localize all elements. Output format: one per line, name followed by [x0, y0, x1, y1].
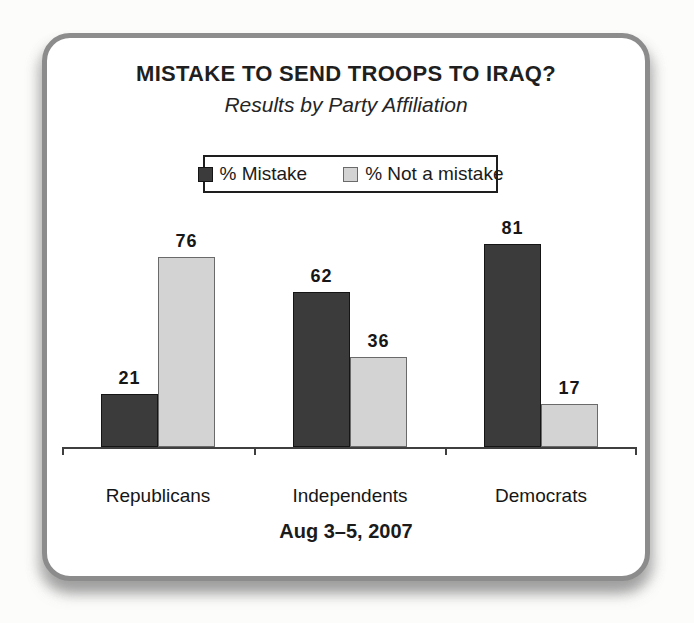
axis-tick — [445, 447, 447, 455]
axis-tick — [62, 447, 64, 455]
legend-label-not-a-mistake: % Not a mistake — [365, 163, 503, 185]
axis-tick — [635, 447, 637, 455]
category-label-independents: Independents — [254, 485, 446, 509]
bar-democrats-not-a-mistake — [541, 404, 598, 447]
bar-republicans-not-a-mistake — [158, 257, 215, 447]
bar-republicans-mistake — [101, 394, 158, 447]
chart-title: MISTAKE TO SEND TROOPS TO IRAQ? — [47, 61, 645, 87]
bar-chart-plot: 2176Republicans6236Independents8117Democ… — [62, 197, 637, 449]
value-label-democrats-not-a-mistake: 17 — [529, 378, 610, 399]
mistake-swatch-icon — [198, 167, 213, 182]
chart-subtitle: Results by Party Affiliation — [47, 93, 645, 117]
axis-tick — [254, 447, 256, 455]
legend: % Mistake % Not a mistake — [203, 155, 498, 193]
category-label-republicans: Republicans — [62, 485, 254, 509]
chart-card: MISTAKE TO SEND TROOPS TO IRAQ? Results … — [42, 33, 650, 581]
scanned-page: MISTAKE TO SEND TROOPS TO IRAQ? Results … — [0, 0, 694, 623]
legend-item-mistake: % Mistake — [198, 163, 308, 185]
value-label-independents-not-a-mistake: 36 — [338, 331, 419, 352]
legend-item-not-a-mistake: % Not a mistake — [343, 163, 503, 185]
value-label-republicans-not-a-mistake: 76 — [146, 231, 227, 252]
value-label-democrats-mistake: 81 — [472, 218, 553, 239]
category-label-democrats: Democrats — [445, 485, 637, 509]
bar-independents-mistake — [293, 292, 350, 447]
legend-label-mistake: % Mistake — [220, 163, 308, 185]
date-note: Aug 3–5, 2007 — [47, 520, 645, 543]
not-a-mistake-swatch-icon — [343, 167, 358, 182]
value-label-independents-mistake: 62 — [281, 266, 362, 287]
bar-democrats-mistake — [484, 244, 541, 447]
bar-independents-not-a-mistake — [350, 357, 407, 447]
